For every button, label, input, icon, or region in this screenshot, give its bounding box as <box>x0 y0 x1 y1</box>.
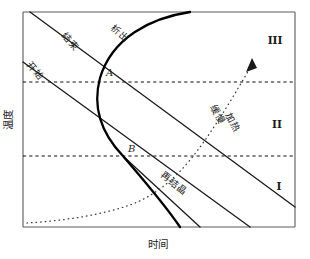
point-label-b: B <box>127 143 135 154</box>
region-label-two: II <box>272 118 282 130</box>
x-axis-label: 时间 <box>148 238 168 250</box>
figure-background <box>0 0 310 259</box>
diagram-figure: 温度 时间 结束 析出 开始 再结晶 缓慢 加热 A B III II I <box>0 0 310 259</box>
y-axis-label: 温度 <box>2 109 14 130</box>
region-label-one: I <box>277 180 282 192</box>
region-label-three: III <box>268 34 283 46</box>
point-label-a: A <box>105 67 113 78</box>
